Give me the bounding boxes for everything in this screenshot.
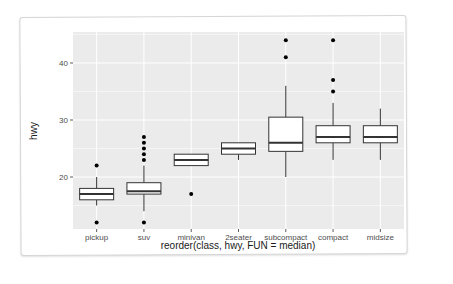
iqr-box — [316, 126, 350, 143]
y-tick-label: 40 — [59, 59, 68, 68]
outlier-point — [142, 135, 146, 139]
x-axis-title: reorder(class, hwy, FUN = median) — [161, 240, 316, 251]
x-tick-label: compact — [318, 233, 349, 242]
outlier-point — [142, 221, 146, 225]
y-tick-label: 20 — [59, 173, 68, 182]
outlier-point — [284, 38, 288, 42]
boxplot-chart: 203040 pickupsuvminivan2seatersubcompact… — [0, 0, 453, 284]
x-tick-label: suv — [138, 233, 150, 242]
iqr-box — [269, 117, 303, 151]
outlier-point — [331, 90, 335, 94]
x-tick-label: pickup — [85, 233, 109, 242]
y-tick-label: 30 — [59, 116, 68, 125]
outlier-point — [142, 147, 146, 151]
outlier-point — [142, 141, 146, 145]
x-tick-label: midsize — [367, 233, 395, 242]
outlier-point — [95, 164, 99, 168]
iqr-box — [127, 183, 161, 194]
outlier-point — [142, 158, 146, 162]
outlier-point — [95, 221, 99, 225]
y-axis-title: hwy — [28, 122, 39, 140]
outlier-point — [142, 152, 146, 156]
outlier-point — [331, 78, 335, 82]
outlier-point — [284, 55, 288, 59]
outlier-point — [189, 192, 193, 196]
outlier-point — [331, 38, 335, 42]
iqr-box — [363, 126, 397, 143]
y-axis: 203040 — [59, 59, 73, 182]
